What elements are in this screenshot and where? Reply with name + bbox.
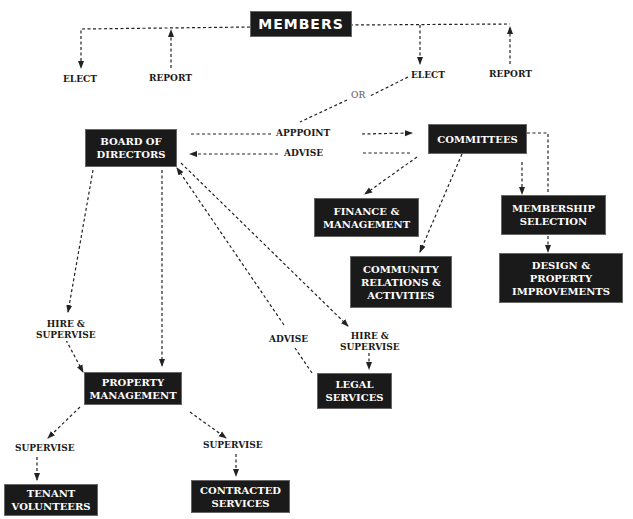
label-supervise-tenant: SUPERVISE	[14, 443, 76, 454]
node-members: MEMBERS	[251, 12, 351, 36]
label-hire-supervise-left: HIRE & SUPERVISE	[35, 319, 97, 341]
node-membership-selection: MEMBERSHIP SELECTION	[502, 196, 605, 234]
label-appoint: APPPOINT	[275, 128, 331, 139]
label-hire-supervise-legal: HIRE & SUPERVISE	[339, 331, 401, 353]
label-supervise-contracted: SUPERVISE	[202, 440, 264, 451]
node-finance-management: FINANCE & MANAGEMENT	[315, 199, 418, 236]
label-elect-right: ELECT	[410, 70, 446, 81]
node-design-property: DESIGN & PROPERTY IMPROVEMENTS	[500, 254, 622, 302]
node-legal-services: LEGAL SERVICES	[318, 374, 391, 408]
node-property-management: PROPERTY MANAGEMENT	[85, 373, 181, 404]
label-advise-top: ADVISE	[283, 148, 324, 159]
node-community-relations: COMMUNITY RELATIONS & ACTIVITIES	[351, 257, 451, 307]
label-elect-left: ELECT	[62, 74, 98, 85]
label-or: OR	[350, 90, 366, 101]
label-advise-legal: ADVISE	[268, 334, 309, 345]
node-committees: COMMITTEES	[429, 125, 526, 153]
label-report-left: REPORT	[148, 73, 193, 84]
label-report-right: REPORT	[488, 69, 533, 80]
node-board-of-directors: BOARD OF DIRECTORS	[86, 130, 176, 166]
node-tenant-volunteers: TENANT VOLUNTEERS	[5, 485, 97, 515]
node-contracted-services: CONTRACTED SERVICES	[192, 481, 289, 512]
